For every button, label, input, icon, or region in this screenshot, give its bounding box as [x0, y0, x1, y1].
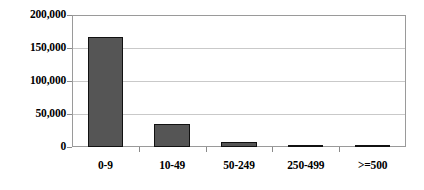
- x-tick-mark: [339, 147, 340, 152]
- x-axis-ticks: [72, 147, 406, 153]
- y-tick-label: 200,000: [0, 9, 66, 21]
- x-tick-label-50-249: 50-249: [206, 160, 273, 172]
- x-tick-label-10-49: 10-49: [139, 160, 206, 172]
- x-tick-label-250-499: 250-499: [272, 160, 339, 172]
- y-axis: 200,000 150,000 100,000 50,000 0: [0, 0, 66, 190]
- y-tick-label: 100,000: [0, 75, 66, 87]
- x-tick-mark: [272, 147, 273, 152]
- y-tick-label: 150,000: [0, 42, 66, 54]
- x-axis: 0-9 10-49 50-249 250-499 >=500: [72, 160, 406, 182]
- bar-slot: [72, 15, 139, 147]
- bar-10-49[interactable]: [154, 124, 189, 147]
- y-tick-label: 0: [0, 141, 66, 153]
- x-tick-mark: [139, 147, 140, 152]
- bar-slot: [206, 15, 273, 147]
- bar-slot: [339, 15, 406, 147]
- bar-slot: [139, 15, 206, 147]
- x-tick-label-0-9: 0-9: [72, 160, 139, 172]
- x-tick-mark: [206, 147, 207, 152]
- bar-slot: [272, 15, 339, 147]
- y-tick-label: 50,000: [0, 108, 66, 120]
- bar-chart: 200,000 150,000 100,000 50,000 0: [0, 0, 424, 190]
- bar-0-9[interactable]: [88, 37, 123, 147]
- bars-layer: [72, 15, 406, 147]
- x-tick-label-gte-500: >=500: [339, 160, 406, 172]
